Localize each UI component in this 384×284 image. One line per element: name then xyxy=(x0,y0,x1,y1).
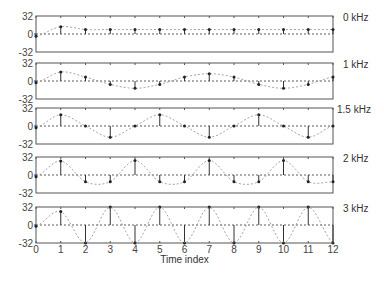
stem-marker xyxy=(109,180,112,183)
stem-marker xyxy=(282,87,285,90)
panel-label: 3 kHz xyxy=(343,203,369,214)
stem-marker xyxy=(282,159,285,162)
x-tick-label: 9 xyxy=(256,244,262,255)
panel-label: 1 kHz xyxy=(343,59,369,70)
stem-marker xyxy=(158,83,161,86)
y-tick-label: -32 xyxy=(19,47,34,58)
stem-marker xyxy=(109,28,112,31)
y-tick-label: 0 xyxy=(27,170,33,181)
stem-marker xyxy=(59,71,62,74)
panel-label: 0 kHz xyxy=(343,12,369,23)
panel-label: 1.5 kHz xyxy=(337,104,371,115)
x-tick-label: 0 xyxy=(33,244,39,255)
y-tick-label: 32 xyxy=(22,152,34,163)
stem-marker xyxy=(59,159,62,162)
y-tick-label: 32 xyxy=(22,58,34,69)
stem-marker xyxy=(84,125,87,128)
x-tick-label: 12 xyxy=(327,244,339,255)
stem-marker xyxy=(208,159,211,162)
stem-marker xyxy=(183,125,186,128)
y-tick-label: 0 xyxy=(27,121,33,132)
x-tick-label: 3 xyxy=(107,244,113,255)
stem-marker xyxy=(84,76,87,79)
stem-marker xyxy=(208,28,211,31)
stem-marker xyxy=(35,35,38,38)
y-tick-label: 0 xyxy=(27,220,33,231)
stem-marker xyxy=(109,83,112,86)
stem-marker xyxy=(134,159,137,162)
stem-marker xyxy=(35,81,38,84)
stem-chart: 320-320 kHz320-321 kHz320-321.5 kHz320-3… xyxy=(0,0,384,284)
stem-marker xyxy=(84,180,87,183)
x-tick-label: 11 xyxy=(303,244,314,255)
stem-marker xyxy=(257,28,260,31)
stem-marker xyxy=(332,125,335,128)
stem-marker xyxy=(183,28,186,31)
x-tick-label: 8 xyxy=(231,244,237,255)
stem-marker xyxy=(35,175,38,178)
stem-marker xyxy=(59,210,62,213)
stem-marker xyxy=(84,28,87,31)
y-tick-label: 32 xyxy=(22,202,34,213)
stem-marker xyxy=(307,28,310,31)
stem-marker xyxy=(307,136,310,139)
stem-marker xyxy=(257,180,260,183)
stem-marker xyxy=(282,28,285,31)
stem-marker xyxy=(183,180,186,183)
stem-marker xyxy=(282,125,285,128)
stem-marker xyxy=(332,180,335,183)
stem-marker xyxy=(35,126,38,129)
stem-marker xyxy=(59,113,62,116)
y-tick-label: 0 xyxy=(27,29,33,40)
stem-marker xyxy=(59,25,62,28)
stem-marker xyxy=(134,87,137,90)
stem-marker xyxy=(332,28,335,31)
x-tick-label: 1 xyxy=(58,244,64,255)
y-tick-label: -32 xyxy=(19,188,34,199)
x-tick-label: 4 xyxy=(132,244,138,255)
stem-marker xyxy=(233,180,236,183)
stem-marker xyxy=(233,76,236,79)
y-tick-label: 32 xyxy=(22,103,34,114)
stem-marker xyxy=(134,125,137,128)
x-tick-label: 2 xyxy=(83,244,89,255)
y-tick-label: -32 xyxy=(19,238,34,249)
stem-marker xyxy=(233,125,236,128)
stem-marker xyxy=(158,113,161,116)
x-tick-label: 10 xyxy=(278,244,290,255)
x-axis-label: Time index xyxy=(160,254,209,265)
stem-marker xyxy=(257,113,260,116)
stem-marker xyxy=(183,76,186,79)
stem-marker xyxy=(257,83,260,86)
stem-marker xyxy=(158,28,161,31)
stem-marker xyxy=(208,136,211,139)
stem-marker xyxy=(307,180,310,183)
y-tick-label: 32 xyxy=(22,11,34,22)
stem-marker xyxy=(134,28,137,31)
stem-marker xyxy=(158,180,161,183)
stem-marker xyxy=(233,28,236,31)
stem-marker xyxy=(332,76,335,79)
y-tick-label: -32 xyxy=(19,139,34,150)
stem-marker xyxy=(208,72,211,75)
y-tick-label: 0 xyxy=(27,76,33,87)
stem-marker xyxy=(109,136,112,139)
panel-label: 2 kHz xyxy=(343,153,369,164)
stem-marker xyxy=(307,83,310,86)
